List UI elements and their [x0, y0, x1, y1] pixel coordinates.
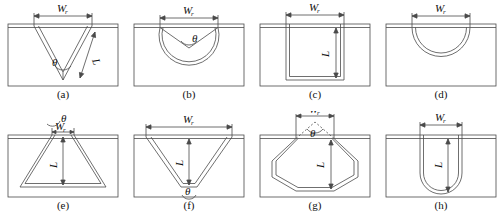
width-subscript: r: [317, 111, 320, 117]
width-arrow-right: [227, 125, 232, 129]
depth-label: L: [47, 162, 59, 169]
width-arrow-right: [87, 14, 92, 18]
depth-arrow-bottom: [61, 180, 65, 185]
depth-arrow-bottom: [79, 72, 83, 78]
depth-label: L: [173, 160, 185, 167]
depth-arrow-top: [61, 137, 65, 142]
panel-caption-g: (g): [252, 199, 378, 211]
width-subscript: r: [63, 126, 66, 134]
depth-arrow-top: [446, 139, 450, 144]
depth-label: L: [432, 162, 444, 169]
figure-row-top: W r L θ (a): [0, 0, 504, 111]
panel-e: W r L θ (e): [0, 111, 126, 222]
panel-b: W r θ (b): [126, 0, 252, 111]
width-subscript: r: [65, 8, 68, 16]
width-arrow-left: [160, 16, 165, 20]
width-subscript: r: [317, 7, 320, 15]
angle-label: θ: [192, 32, 198, 44]
groove-geometry-figure: W r L θ (a): [0, 0, 504, 223]
depth-label: L: [90, 56, 104, 66]
panel-caption-e: (e): [0, 199, 126, 211]
width-arrow-left: [286, 13, 291, 17]
width-arrow-right: [465, 14, 470, 18]
depth-arrow-top: [91, 32, 95, 38]
panel-caption-h: (h): [378, 199, 504, 211]
width-subscript: r: [443, 117, 446, 125]
panel-d: W r (d): [378, 0, 504, 111]
width-arrow-right: [213, 16, 218, 20]
width-arrow-left: [420, 123, 425, 127]
groove-profile-inner: [416, 28, 467, 54]
virtual-apex-line-right: [315, 122, 334, 139]
width-arrow-left: [146, 125, 151, 129]
width-arrow-left: [34, 14, 39, 18]
depth-arrow-top: [187, 139, 191, 144]
panel-caption-d: (d): [378, 88, 504, 100]
depth-label: L: [314, 162, 326, 169]
width-subscript: r: [443, 8, 446, 16]
plate-outline: [134, 24, 244, 86]
angle-label: θ: [61, 112, 67, 124]
panel-c: W r L (c): [252, 0, 378, 111]
width-subscript: r: [191, 119, 194, 127]
panel-caption-b: (b): [126, 88, 252, 100]
panel-a: W r L θ (a): [0, 0, 126, 111]
groove-profile-outer: [412, 28, 470, 57]
panel-f: W r L θ (f): [126, 111, 252, 222]
depth-arrow-top: [329, 140, 333, 145]
depth-arrow-top: [334, 28, 338, 33]
groove-profile-inner: [290, 24, 341, 77]
width-arrow-right: [329, 114, 334, 118]
panel-caption-f: (f): [126, 199, 252, 211]
angle-label: θ: [185, 185, 191, 197]
plate-outline: [386, 24, 496, 86]
groove-profile-inner: [39, 26, 88, 72]
width-arrow-right: [457, 123, 462, 127]
panel-g: W r θ L (g): [252, 111, 378, 222]
depth-label: L: [319, 51, 331, 58]
width-arrow-left: [296, 114, 301, 118]
depth-arrow-bottom: [334, 73, 338, 78]
width-arrow-right: [339, 13, 344, 17]
panel-h: W r L (h): [378, 111, 504, 222]
panel-caption-a: (a): [0, 88, 126, 100]
angle-label: θ: [52, 56, 58, 68]
angle-label: θ: [310, 127, 316, 139]
depth-arrow-bottom: [329, 184, 333, 189]
figure-row-bottom: W r L θ (e): [0, 111, 504, 222]
depth-dimension-line: [80, 32, 95, 78]
width-arrow-left: [412, 14, 417, 18]
width-arrow-right: [70, 130, 74, 133]
panel-caption-c: (c): [252, 88, 378, 100]
width-subscript: r: [191, 10, 194, 18]
